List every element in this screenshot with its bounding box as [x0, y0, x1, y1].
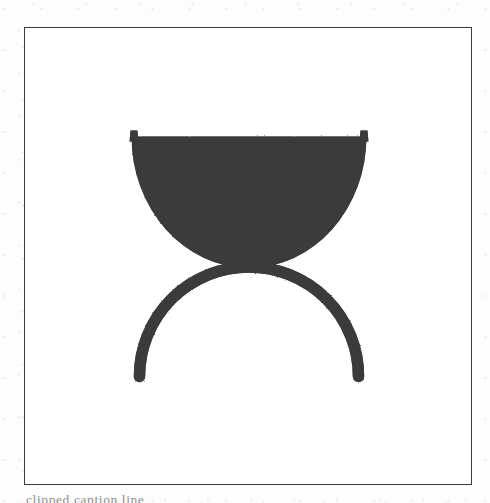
figure-plate-frame [24, 27, 472, 485]
drawing-canvas [25, 28, 471, 484]
ink-toplayer [130, 131, 369, 377]
figure-page: clipped caption line [0, 0, 490, 503]
figure-caption: clipped caption line [26, 492, 466, 503]
bowl-over-arch-drawing [25, 28, 471, 484]
